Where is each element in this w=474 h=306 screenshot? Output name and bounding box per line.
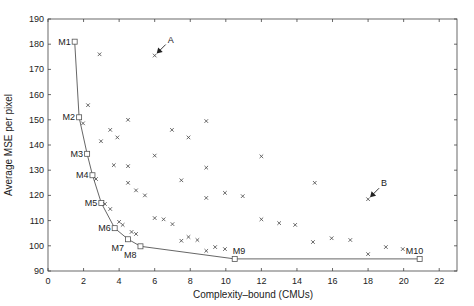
x-marker — [213, 245, 217, 249]
x-marker — [153, 54, 157, 58]
model-label: M6 — [98, 223, 111, 233]
square-marker — [85, 151, 90, 156]
x-marker — [196, 238, 200, 242]
x-marker — [313, 181, 317, 185]
x-tick-label: 12 — [256, 276, 266, 286]
x-marker — [99, 139, 103, 143]
y-tick-label: 160 — [29, 90, 44, 100]
x-marker — [108, 128, 112, 132]
square-marker — [77, 115, 82, 120]
annotations: AB — [157, 35, 387, 198]
x-marker — [108, 207, 112, 211]
x-marker — [223, 191, 227, 195]
y-tick-label: 140 — [29, 140, 44, 150]
x-marker — [171, 222, 175, 226]
x-marker — [86, 103, 90, 107]
x-marker — [126, 118, 130, 122]
x-marker — [366, 197, 370, 201]
x-marker — [293, 223, 297, 227]
y-tick-label: 170 — [29, 64, 44, 74]
x-marker — [134, 232, 138, 236]
model-label: M1 — [58, 37, 71, 47]
x-tick-label: 6 — [152, 276, 157, 286]
square-marker — [99, 200, 104, 205]
y-tick-label: 150 — [29, 115, 44, 125]
model-label: M5 — [85, 198, 98, 208]
x-marker — [401, 247, 405, 251]
plot-frame — [48, 19, 457, 271]
x-marker — [204, 119, 208, 123]
y-tick-label: 130 — [29, 165, 44, 175]
x-marker — [260, 155, 264, 159]
x-marker — [187, 136, 191, 140]
square-marker — [126, 237, 131, 242]
model-label: M2 — [63, 112, 76, 122]
x-tick-label: 4 — [117, 276, 122, 286]
x-marker — [134, 189, 138, 193]
x-marker — [204, 249, 208, 253]
x-tick-label: 10 — [221, 276, 231, 286]
model-label: M8 — [124, 250, 137, 260]
x-axis-label: Complexity–bound (CMUs) — [193, 289, 313, 300]
x-tick-label: 16 — [328, 276, 338, 286]
x-marker — [366, 252, 370, 256]
annotation-label: A — [168, 35, 174, 45]
square-marker — [138, 244, 143, 249]
y-tick-label: 190 — [29, 14, 44, 24]
x-marker — [384, 245, 388, 249]
x-marker — [94, 177, 98, 181]
x-tick-label: 22 — [434, 276, 444, 286]
model-label: M4 — [76, 170, 89, 180]
x-marker — [126, 164, 130, 168]
y-tick-label: 110 — [30, 216, 44, 226]
model-label: M9 — [233, 246, 246, 256]
model-label: M7 — [112, 243, 125, 253]
square-marker — [90, 173, 95, 178]
x-marker — [116, 136, 120, 140]
x-marker — [241, 194, 245, 198]
x-tick-label: 20 — [399, 276, 409, 286]
x-tick-label: 2 — [81, 276, 86, 286]
series-layer: M1M2M3M4M5M6M7M8M9M10 — [58, 37, 423, 262]
x-marker — [180, 178, 184, 182]
x-marker — [121, 223, 125, 227]
x-marker — [349, 238, 353, 242]
model-label: M10 — [406, 246, 424, 256]
x-marker — [187, 235, 191, 239]
x-marker — [153, 216, 157, 220]
square-marker — [417, 256, 422, 261]
x-marker — [162, 218, 166, 222]
x-marker — [204, 166, 208, 170]
annotation-label: B — [381, 178, 387, 188]
x-marker — [180, 239, 184, 243]
model-label: M3 — [71, 149, 84, 159]
x-tick-label: 18 — [363, 276, 373, 286]
x-marker — [170, 128, 174, 132]
x-tick-label: 14 — [292, 276, 302, 286]
x-tick-label: 0 — [45, 276, 50, 286]
chart-canvas: 0246810121416182022901001101201301401501… — [0, 0, 474, 306]
x-marker — [277, 221, 281, 225]
square-marker — [232, 256, 237, 261]
y-tick-label: 90 — [34, 266, 44, 276]
x-marker — [130, 230, 134, 234]
x-marker — [223, 247, 227, 251]
x-marker — [126, 181, 130, 185]
y-tick-label: 120 — [29, 190, 44, 200]
y-axis-label: Average MSE per pixel — [3, 94, 14, 196]
square-marker — [112, 226, 117, 231]
x-marker — [117, 220, 121, 224]
x-marker — [112, 163, 116, 167]
scatter-chart: 0246810121416182022901001101201301401501… — [0, 0, 474, 306]
pareto-line — [75, 42, 420, 259]
x-tick-label: 8 — [188, 276, 193, 286]
x-marker — [260, 218, 264, 222]
x-marker — [81, 122, 85, 126]
y-tick-label: 100 — [29, 241, 44, 251]
x-marker — [143, 194, 147, 198]
x-marker — [311, 240, 315, 244]
x-marker — [98, 52, 102, 56]
y-tick-label: 180 — [29, 39, 44, 49]
square-marker — [72, 39, 77, 44]
x-marker — [204, 196, 208, 200]
